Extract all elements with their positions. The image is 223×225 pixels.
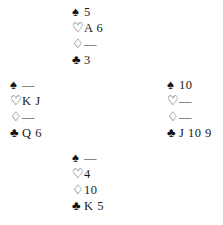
north-hand: ♠ 5 ♡ A 6 ♢ — ♣ 3 [72,4,103,68]
diamond-icon: ♢ [72,36,84,52]
south-hand: ♠ — ♡ 4 ♢ 10 ♣ K 5 [72,150,104,214]
north-diamonds-cards: — [84,36,97,52]
diamond-icon: ♢ [72,182,84,198]
east-diamonds-row: ♢ — [167,109,212,125]
south-diamonds-cards: 10 [84,182,98,198]
west-hearts-row: ♡ K J [10,93,42,109]
west-diamonds-cards: — [22,109,35,125]
heart-icon: ♡ [72,166,84,182]
east-hearts-row: ♡ — [167,93,212,109]
club-icon: ♣ [72,52,84,68]
east-diamonds-cards: — [179,109,192,125]
east-clubs-row: ♣ J 10 9 [167,125,212,141]
north-diamonds-row: ♢ — [72,36,103,52]
spade-icon: ♠ [72,4,84,20]
east-hearts-cards: — [179,93,192,109]
diamond-icon: ♢ [167,109,179,125]
north-hearts-cards: A 6 [84,20,103,36]
spade-icon: ♠ [167,77,179,93]
spade-icon: ♠ [72,150,84,166]
club-icon: ♣ [72,198,84,214]
east-clubs-cards: J 10 9 [179,125,212,141]
south-spades-cards: — [84,150,97,166]
west-clubs-row: ♣ Q 6 [10,125,42,141]
north-spades-row: ♠ 5 [72,4,103,20]
south-diamonds-row: ♢ 10 [72,182,104,198]
west-diamonds-row: ♢ — [10,109,42,125]
heart-icon: ♡ [10,93,22,109]
west-hearts-cards: K J [22,93,41,109]
west-spades-row: ♠ — [10,77,42,93]
north-clubs-row: ♣ 3 [72,52,103,68]
north-clubs-cards: 3 [84,52,91,68]
diamond-icon: ♢ [10,109,22,125]
south-hearts-row: ♡ 4 [72,166,104,182]
west-hand: ♠ — ♡ K J ♢ — ♣ Q 6 [10,77,42,141]
north-spades-cards: 5 [84,4,91,20]
spade-icon: ♠ [10,77,22,93]
heart-icon: ♡ [72,20,84,36]
heart-icon: ♡ [167,93,179,109]
east-spades-cards: 10 [179,77,193,93]
east-hand: ♠ 10 ♡ — ♢ — ♣ J 10 9 [167,77,212,141]
north-hearts-row: ♡ A 6 [72,20,103,36]
south-spades-row: ♠ — [72,150,104,166]
east-spades-row: ♠ 10 [167,77,212,93]
south-hearts-cards: 4 [84,166,91,182]
club-icon: ♣ [10,125,22,141]
club-icon: ♣ [167,125,179,141]
south-clubs-row: ♣ K 5 [72,198,104,214]
west-clubs-cards: Q 6 [22,125,42,141]
south-clubs-cards: K 5 [84,198,104,214]
west-spades-cards: — [22,77,35,93]
